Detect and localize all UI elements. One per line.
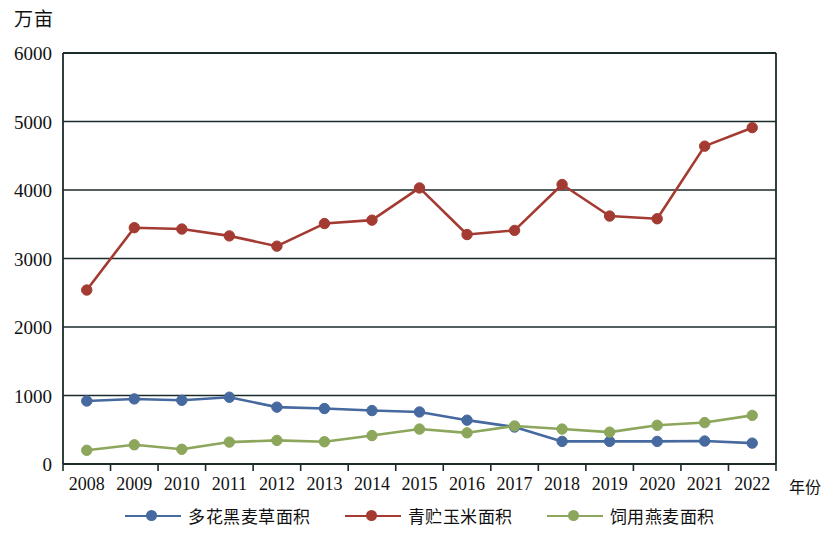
data-point [700,436,710,446]
line-chart: 万亩 0100020003000400050006000 20082009201… [0,0,840,534]
data-point [177,395,187,405]
legend-marker-icon [345,509,401,523]
data-point [129,394,139,404]
legend-dot [366,510,377,521]
legend-dot [146,510,157,521]
y-axis-tick-labels: 0100020003000400050006000 [14,43,52,475]
data-point [462,415,472,425]
legend-item[interactable]: 多花黑麦草面积 [125,503,311,528]
data-point [652,214,662,224]
legend-dot [568,510,579,521]
y-tick-label: 2000 [14,317,52,338]
x-tick-label: 2012 [259,474,295,494]
data-point [652,436,662,446]
chart-plot-area: 0100020003000400050006000 20082009201020… [0,0,840,534]
x-tick-label: 2010 [164,474,200,494]
data-point [129,440,139,450]
legend-marker-icon [547,509,603,523]
x-tick-label: 2008 [69,474,105,494]
data-point [224,392,234,402]
data-point [224,231,234,241]
legend-item[interactable]: 青贮玉米面积 [345,503,513,528]
legend-label: 青贮玉米面积 [408,503,513,528]
data-point [367,430,377,440]
series-2 [82,122,758,295]
data-point [272,241,282,251]
data-point [177,444,187,454]
series-line [87,397,752,443]
y-tick-label: 0 [43,454,53,475]
x-tick-label: 2011 [212,474,247,494]
data-point [604,211,614,221]
y-tick-label: 6000 [14,43,52,64]
gridlines [63,122,776,396]
data-point [462,229,472,239]
x-tick-label: 2015 [402,474,438,494]
x-tick-label: 2013 [306,474,342,494]
x-tick-label: 2018 [544,474,580,494]
data-point [747,410,757,420]
data-point [557,424,567,434]
data-point [747,438,757,448]
x-axis-tick-labels: 2008200920102011201220132014201520162017… [69,474,770,494]
x-tick-label: 2014 [354,474,390,494]
data-point [272,435,282,445]
y-tick-label: 1000 [14,386,52,407]
data-point [509,225,519,235]
data-point [272,402,282,412]
data-point [462,428,472,438]
data-point [82,285,92,295]
y-tick-label: 5000 [14,112,52,133]
data-point [129,222,139,232]
data-point [414,407,424,417]
x-tick-label: 2017 [497,474,533,494]
x-tick-label: 2021 [687,474,723,494]
data-point [747,122,757,132]
data-point [414,424,424,434]
x-tick-label: 2016 [449,474,485,494]
data-point [509,421,519,431]
x-axis-title: 年份 [789,474,821,498]
x-tick-label: 2009 [116,474,152,494]
data-point [319,403,329,413]
data-point [652,420,662,430]
data-point [177,224,187,234]
y-tick-label: 3000 [14,249,52,270]
data-point [367,215,377,225]
data-point [319,437,329,447]
legend-label: 多花黑麦草面积 [188,503,311,528]
legend-item[interactable]: 饲用燕麦面积 [547,503,715,528]
data-point [82,396,92,406]
x-tick-label: 2019 [592,474,628,494]
data-point [557,436,567,446]
x-tick-label: 2020 [639,474,675,494]
data-point [557,179,567,189]
data-point [604,427,614,437]
x-tick-label: 2022 [734,474,770,494]
data-point [700,141,710,151]
data-point [414,183,424,193]
data-series-layer [82,122,758,455]
data-point [367,405,377,415]
data-point [82,445,92,455]
legend-marker-icon [125,509,181,523]
data-point [700,417,710,427]
legend-label: 饲用燕麦面积 [610,503,715,528]
series-line [87,128,752,290]
data-point [224,437,234,447]
data-point [319,218,329,228]
chart-legend: 多花黑麦草面积青贮玉米面积饲用燕麦面积 [0,503,840,528]
y-tick-label: 4000 [14,180,52,201]
